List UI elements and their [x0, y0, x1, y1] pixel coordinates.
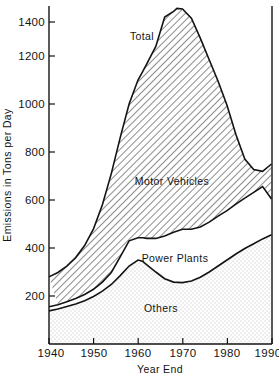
y-tick-label-800: 800 [25, 146, 45, 158]
x-axis-title: Year End [137, 363, 183, 375]
y-tick-label-400: 400 [25, 242, 45, 254]
series-label-motor-vehicles: Motor Vehicles [135, 175, 209, 187]
y-tick-label-600: 600 [25, 194, 45, 206]
x-tick-label-1980: 1980 [214, 347, 241, 359]
x-tick-label-1940: 1940 [38, 347, 65, 359]
y-tick-label-1200: 1200 [18, 50, 45, 62]
y-axis-title: Emissions in Tons per Day [1, 108, 13, 242]
x-tick-label-1970: 1970 [170, 347, 197, 359]
x-tick-label-1950: 1950 [81, 347, 108, 359]
x-tick-label-1990: 1990 [255, 347, 279, 359]
chart-svg: 200 400 600 800 1000 1200 1400 1940 1950… [0, 0, 279, 380]
y-tick-label-1000: 1000 [18, 98, 45, 110]
emissions-area-chart: 200 400 600 800 1000 1200 1400 1940 1950… [0, 0, 279, 380]
series-label-total: Total [130, 30, 154, 42]
x-tick-label-1960: 1960 [125, 347, 152, 359]
series-label-power-plants: Power Plants [142, 252, 209, 264]
y-tick-label-1400: 1400 [18, 16, 45, 28]
y-tick-label-200: 200 [25, 290, 45, 302]
series-label-others: Others [144, 302, 178, 314]
